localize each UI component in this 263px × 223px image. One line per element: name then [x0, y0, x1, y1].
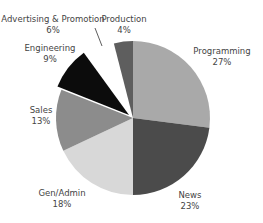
slice-label: Gen/Admin18%: [38, 188, 85, 210]
slice-label: Advertising & Promotion6%: [1, 14, 104, 36]
pie-slice-news: [133, 118, 209, 195]
slice-label-name: Sales: [30, 105, 53, 116]
slice-label: News23%: [179, 190, 202, 212]
slice-label-percent: 23%: [179, 201, 202, 212]
slice-label-name: Engineering: [25, 43, 76, 54]
slice-label-percent: 6%: [1, 25, 104, 36]
slice-label: Programming27%: [193, 46, 250, 68]
slice-label-percent: 9%: [25, 54, 76, 65]
slice-label-percent: 13%: [30, 116, 53, 127]
slice-label-percent: 27%: [193, 57, 250, 68]
slice-label-name: Advertising & Promotion: [1, 14, 104, 25]
slice-label: Sales13%: [30, 105, 53, 127]
slice-label-name: Gen/Admin: [38, 188, 85, 199]
slice-label-name: News: [179, 190, 202, 201]
slice-label: Engineering9%: [25, 43, 76, 65]
slice-label-percent: 18%: [38, 199, 85, 210]
slice-label: Production4%: [101, 14, 146, 36]
slice-label-name: Programming: [193, 46, 250, 57]
slice-label-percent: 4%: [101, 25, 146, 36]
slice-label-name: Production: [101, 14, 146, 25]
